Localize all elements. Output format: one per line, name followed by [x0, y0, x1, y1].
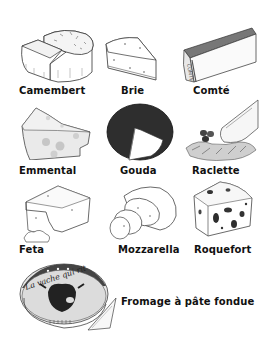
cheese-label-emmental: Emmental — [19, 165, 76, 176]
cheese-label-mozzarella: Mozzarella — [118, 244, 180, 255]
comte-illustration: COMTE — [180, 24, 260, 84]
cheese-label-brie: Brie — [121, 85, 144, 96]
cheese-label-camembert: Camembert — [19, 85, 85, 96]
emmental-illustration — [18, 104, 94, 160]
cheese-label-processed: Fromage à pâte fondue — [121, 296, 254, 307]
raclette-illustration — [182, 98, 260, 164]
cheese-label-roquefort: Roquefort — [194, 244, 251, 255]
cheese-label-raclette: Raclette — [192, 165, 240, 176]
gouda-illustration — [105, 102, 175, 162]
cheese-label-feta: Feta — [19, 244, 44, 255]
processed-cheese-illustration: La vache qui rit — [18, 258, 118, 336]
cheese-label-comte: Comté — [193, 85, 230, 96]
roquefort-illustration — [190, 180, 256, 242]
feta-illustration — [18, 182, 94, 244]
brie-illustration — [100, 30, 160, 85]
cheese-label-gouda: Gouda — [120, 165, 157, 176]
mozzarella-illustration — [104, 182, 180, 244]
camembert-illustration — [14, 24, 94, 84]
